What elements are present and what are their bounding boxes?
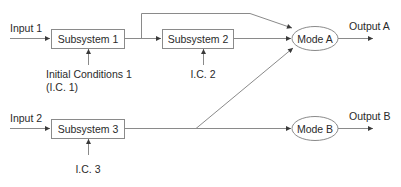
subsystem-1: Subsystem 1 (52, 30, 125, 49)
sub3-to-mode-a-branch (196, 48, 293, 129)
output-a-group: Output A (338, 20, 390, 39)
input-2-label: Input 2 (10, 112, 42, 124)
ic-2-label: I.C. 2 (190, 68, 215, 80)
output-b-label: Output B (349, 110, 390, 122)
mode-b: Mode B (292, 117, 338, 141)
block-diagram: Input 1 Subsystem 1 Subsystem 2 Mode A O… (0, 0, 401, 187)
subsystem-2-label: Subsystem 2 (168, 33, 229, 45)
ic-1-label-line2: (I.C. 1) (46, 81, 78, 93)
ic-2-group: I.C. 2 (190, 49, 215, 80)
ic-1-group: Initial Conditions 1 (I.C. 1) (46, 49, 132, 93)
input-1-group: Input 1 (10, 22, 50, 39)
subsystem-1-label: Subsystem 1 (58, 33, 119, 45)
ic-1-label-line1: Initial Conditions 1 (46, 68, 132, 80)
input-1-label: Input 1 (10, 22, 42, 34)
output-a-label: Output A (349, 20, 390, 32)
mode-a: Mode A (292, 27, 338, 51)
subsystem-3: Subsystem 3 (52, 120, 125, 139)
mode-a-label: Mode A (297, 33, 333, 45)
subsystem-3-label: Subsystem 3 (58, 123, 119, 135)
ic-3-group: I.C. 3 (75, 139, 100, 175)
input-2-group: Input 2 (10, 112, 50, 129)
subsystem-2: Subsystem 2 (163, 30, 234, 49)
output-b-group: Output B (338, 110, 390, 129)
mode-b-label: Mode B (297, 123, 333, 135)
ic-3-label: I.C. 3 (75, 163, 100, 175)
